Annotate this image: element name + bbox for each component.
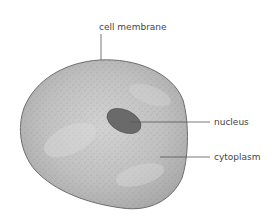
label-nucleus: nucleus <box>214 118 249 127</box>
label-cell-membrane: cell membrane <box>99 23 167 32</box>
label-cytoplasm: cytoplasm <box>214 153 261 162</box>
cytoplasm-texture <box>20 60 187 209</box>
cell-diagram <box>0 0 278 219</box>
